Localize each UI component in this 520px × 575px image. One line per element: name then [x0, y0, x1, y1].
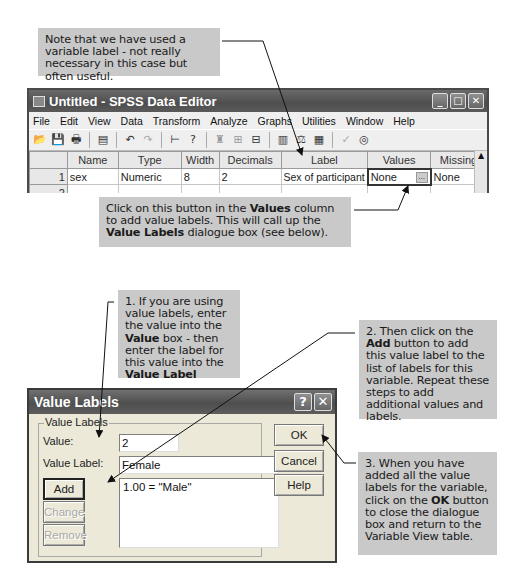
column-header-values[interactable]: Values	[368, 152, 431, 169]
menu-graphs[interactable]: Graphs	[258, 115, 292, 127]
split-file-icon[interactable]: ▥	[275, 132, 291, 148]
maximize-icon[interactable]: □	[450, 93, 466, 109]
toolbar-divider	[161, 132, 162, 148]
note-text: Note that we have used a variable label …	[45, 33, 187, 83]
value-label-label: Value Label:	[43, 457, 103, 469]
close-icon[interactable]: ✕	[468, 93, 484, 109]
minimize-icon[interactable]: _	[432, 93, 448, 109]
insert-variable-icon[interactable]: ⊟	[248, 132, 264, 148]
note-bold: Add	[366, 337, 390, 350]
value-label: Value:	[43, 435, 73, 447]
note-bold: Value	[125, 332, 159, 345]
value-labels-dialog: Value Labels ? ✕ Value Labels Value: 2 V…	[27, 388, 337, 563]
goto-case-icon[interactable]: ⊢	[167, 132, 183, 148]
change-button[interactable]: Change	[43, 501, 85, 523]
cell-label[interactable]: Sex of participant	[281, 169, 368, 185]
cell-name[interactable]: sex	[67, 169, 118, 185]
value-labels-icon[interactable]: ✓	[338, 132, 354, 148]
note-text: button to add this value label to the li…	[366, 337, 489, 423]
spss-data-editor-window: Untitled - SPSS Data Editor _ □ ✕ File E…	[27, 88, 489, 193]
note-text: dialogue box (see below).	[184, 226, 328, 239]
dialog-recall-icon[interactable]: ▤	[95, 132, 111, 148]
value-input[interactable]: 2	[119, 434, 179, 452]
help-icon[interactable]: ?	[294, 393, 312, 411]
column-header-decimals[interactable]: Decimals	[219, 152, 281, 169]
value-label-input[interactable]: Female	[119, 456, 279, 474]
row-number[interactable]: 2	[30, 185, 68, 194]
menu-help[interactable]: Help	[393, 115, 415, 127]
close-icon[interactable]: ✕	[314, 393, 332, 411]
note-variable-label: Note that we have used a variable label …	[38, 28, 220, 76]
cell-name[interactable]	[67, 185, 118, 194]
cell-values[interactable]	[368, 185, 431, 194]
menu-bar: File Edit View Data Transform Analyze Gr…	[29, 112, 487, 129]
table-row: 1 sex Numeric 8 2 Sex of participant Non…	[30, 169, 487, 185]
use-sets-icon[interactable]: ◎	[356, 132, 372, 148]
toolbar-divider	[206, 132, 207, 148]
group-legend: Value Labels	[44, 416, 109, 428]
cell-type[interactable]: Numeric	[118, 169, 181, 185]
menu-data[interactable]: Data	[121, 115, 143, 127]
cell-width[interactable]: 8	[181, 169, 219, 185]
toolbar: 📂 💾 🖶 ▤ ↶ ↷ ⊢ ? ♜ ⊞ ⊟ ▥ ⚖ ▦ ✓ ◎	[29, 129, 487, 151]
menu-utilities[interactable]: Utilities	[302, 115, 336, 127]
undo-icon[interactable]: ↶	[122, 132, 138, 148]
cell-decimals[interactable]	[219, 185, 281, 194]
note-text: 2. Then click on the	[366, 325, 473, 338]
remove-button[interactable]: Remove	[43, 524, 85, 546]
list-item[interactable]: 1.00 = "Male"	[123, 481, 275, 493]
note-text: Click on this button in the	[106, 202, 250, 215]
menu-analyze[interactable]: Analyze	[210, 115, 247, 127]
redo-icon[interactable]: ↷	[140, 132, 156, 148]
note-bold: Value Label	[125, 368, 197, 381]
find-icon[interactable]: ♜	[212, 132, 228, 148]
column-header-label[interactable]: Label	[281, 152, 368, 169]
menu-transform[interactable]: Transform	[153, 115, 200, 127]
toolbar-divider	[332, 132, 333, 148]
note-bold: OK	[431, 494, 449, 507]
grid-corner	[30, 152, 68, 169]
note-step-2: 2. Then click on the Add button to add t…	[359, 320, 497, 419]
toolbar-divider	[89, 132, 90, 148]
cancel-button[interactable]: Cancel	[274, 450, 324, 472]
table-row: 2	[30, 185, 487, 194]
values-ellipsis-button[interactable]: ...	[416, 172, 428, 183]
ok-button[interactable]: OK	[274, 424, 324, 446]
toolbar-divider	[269, 132, 270, 148]
print-icon[interactable]: 🖶	[68, 132, 84, 148]
menu-edit[interactable]: Edit	[60, 115, 78, 127]
note-values-button: Click on this button in the Values colum…	[99, 197, 351, 247]
column-header-name[interactable]: Name	[67, 152, 118, 169]
menu-file[interactable]: File	[33, 115, 50, 127]
cell-type[interactable]	[118, 185, 181, 194]
open-icon[interactable]: 📂	[32, 132, 48, 148]
cell-width[interactable]	[181, 185, 219, 194]
variable-view-grid: Name Type Width Decimals Label Values Mi…	[29, 151, 487, 193]
toolbar-divider	[116, 132, 117, 148]
select-cases-icon[interactable]: ▦	[311, 132, 327, 148]
help-button[interactable]: Help	[274, 474, 324, 496]
cell-values-text: None	[371, 171, 397, 183]
cell-label[interactable]	[281, 185, 368, 194]
note-step-1: 1. If you are using value labels, enter …	[118, 290, 240, 378]
note-bold: Value Labels	[106, 226, 184, 239]
cell-decimals[interactable]: 2	[219, 169, 281, 185]
menu-view[interactable]: View	[88, 115, 111, 127]
dialog-titlebar: Value Labels ? ✕	[29, 390, 335, 414]
app-icon	[33, 96, 45, 107]
note-text: 1. If you are using value labels, enter …	[125, 295, 226, 332]
window-title: Untitled - SPSS Data Editor	[49, 94, 217, 109]
save-icon[interactable]: 💾	[50, 132, 66, 148]
variables-icon[interactable]: ?	[185, 132, 201, 148]
cell-values[interactable]: None ...	[368, 169, 431, 185]
row-number[interactable]: 1	[30, 169, 68, 185]
insert-case-icon[interactable]: ⊞	[230, 132, 246, 148]
column-header-width[interactable]: Width	[181, 152, 219, 169]
value-labels-list[interactable]: 1.00 = "Male"	[119, 478, 279, 548]
dialog-title: Value Labels	[34, 394, 119, 410]
menu-window[interactable]: Window	[346, 115, 383, 127]
add-button[interactable]: Add	[43, 478, 85, 500]
vertical-scrollbar[interactable]: ▲	[474, 151, 487, 193]
column-header-type[interactable]: Type	[118, 152, 181, 169]
weight-cases-icon[interactable]: ⚖	[293, 132, 309, 148]
